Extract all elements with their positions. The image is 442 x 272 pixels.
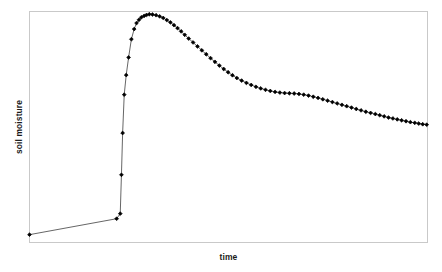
- x-axis-label: time: [29, 252, 428, 262]
- y-axis-label: soil moisture: [12, 11, 26, 243]
- chart-figure: soil moisture time: [0, 0, 442, 272]
- plot-area-frame: [29, 11, 428, 243]
